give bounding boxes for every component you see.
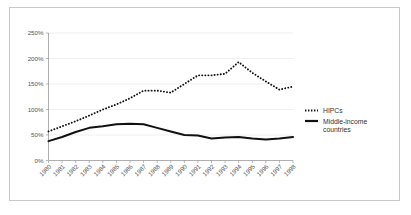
x-axis-tick-labels: 1980198119821983198419851986198719881989…	[38, 162, 298, 177]
x-tick-label: 1995	[241, 162, 256, 177]
line-chart-plot: 0%50%100%150%200%250% 198019811982198319…	[0, 0, 411, 215]
x-tick-label: 1986	[119, 162, 134, 177]
x-tick-label: 1984	[92, 162, 107, 177]
x-tick-label: 1985	[106, 162, 121, 177]
x-tick-label: 1992	[201, 162, 216, 177]
chart-legend: HIPCs Middle-income countries	[305, 107, 367, 133]
x-tick-label: 1983	[78, 162, 93, 177]
x-tick-label: 1981	[51, 162, 66, 177]
chart-figure: 0%50%100%150%200%250% 198019811982198319…	[0, 0, 411, 215]
series-line-hipcs	[49, 62, 294, 131]
x-tick-label: 1993	[214, 162, 229, 177]
x-tick-label: 1987	[133, 162, 148, 177]
y-tick-label: 250%	[28, 29, 44, 36]
legend-label-middle-income-line1: Middle-income	[323, 118, 367, 125]
y-tick-label: 100%	[28, 106, 44, 113]
gridlines-group	[49, 33, 294, 135]
y-tick-label: 200%	[28, 55, 44, 62]
legend-label-middle-income-line2: countries	[323, 126, 351, 133]
x-tick-label: 1982	[65, 162, 80, 177]
y-axis-tick-labels: 0%50%100%150%200%250%	[28, 29, 44, 164]
x-tick-label: 1990	[174, 162, 189, 177]
y-tick-label: 150%	[28, 80, 44, 87]
x-tick-label: 1997	[269, 162, 284, 177]
x-tick-label: 1991	[187, 162, 202, 177]
x-tick-label: 1998	[282, 162, 297, 177]
x-tick-label: 1994	[228, 162, 243, 177]
series-line-middle-income-countries	[49, 124, 294, 141]
x-tick-label: 1996	[255, 162, 270, 177]
y-tick-label: 50%	[31, 131, 44, 138]
x-tick-label: 1980	[38, 162, 53, 177]
x-tick-label: 1989	[160, 162, 175, 177]
y-tick-label: 0%	[35, 157, 44, 164]
legend-label-hipcs: HIPCs	[323, 107, 343, 114]
x-tick-label: 1988	[146, 162, 161, 177]
